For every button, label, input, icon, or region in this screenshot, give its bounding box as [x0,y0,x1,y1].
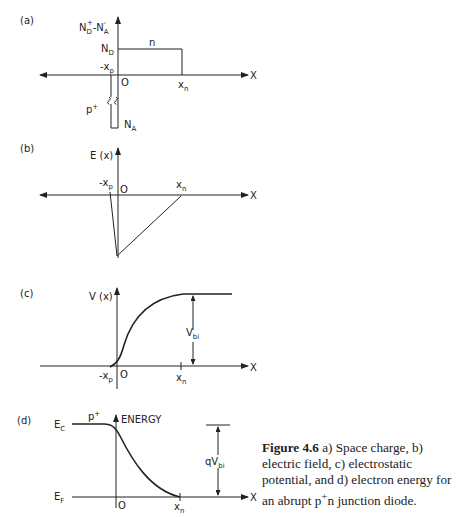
p-region-bottom [111,104,118,128]
panel-tag-b: (b) [20,143,34,154]
y-axis-label-c: V (x) [89,291,113,302]
energy-band-curve [72,424,180,497]
neg-xp-label: -xp [99,177,114,191]
qvbi-label: qVbi [205,456,225,470]
x-axis-label: X [250,190,257,201]
ef-label: EF [54,491,64,505]
y-axis-label-a: ND+-NA- [79,19,109,36]
xn-label: xn [174,501,184,515]
axis-break-icon [108,97,111,105]
vbi-label: Vbi [186,327,199,341]
potential-curve [110,294,232,367]
panel-a-space-charge [40,17,248,128]
n-region-charge [118,49,182,75]
y-axis-label-b: E (x) [90,150,113,161]
xn-label: xn [176,179,186,193]
figure-caption: Figure 4.6 a) Space charge, b) electric … [262,440,462,509]
na-label: NA [124,119,136,133]
neg-xp-label: -xp [100,61,115,75]
panel-tag-c: (c) [20,288,33,299]
origin-label: O [118,500,126,511]
ec-label: EC [54,419,65,433]
panel-c-potential [40,288,248,389]
x-axis-label: X [250,70,257,81]
neg-xp-label: -xp [99,370,114,384]
caption-tail: n junction diode. [328,493,417,508]
axis-break-icon [115,97,118,105]
origin-label: O [120,184,128,195]
x-axis-label: X [250,492,257,503]
x-axis-label: X [250,362,257,373]
n-region-label: n [149,37,155,48]
figure-number: Figure 4.6 [262,440,319,455]
xn-label: xn [176,372,186,386]
origin-label: O [121,77,129,88]
y-axis-label-d: ENERGY [121,414,162,425]
nd-label: ND [101,43,114,57]
panel-tag-a: (a) [20,15,34,26]
xn-label: xn [178,79,188,93]
panel-tag-d: (d) [17,415,31,426]
origin-label: O [120,369,128,380]
p-plus-label: p+ [86,103,98,115]
p-plus-label: p+ [88,410,100,422]
field-profile [110,192,181,256]
panel-b-electric-field [40,148,248,258]
